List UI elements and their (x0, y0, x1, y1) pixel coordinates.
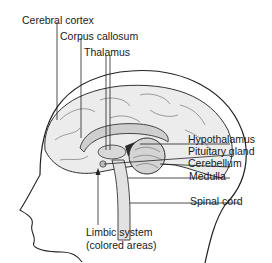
thalamus (98, 145, 126, 159)
label-thalamus: Thalamus (84, 46, 130, 58)
label-hypothalamus: Hypothalamus (188, 133, 255, 145)
label-cerebellum: Cerebellum (188, 157, 242, 169)
label-pituitary-gland: Pituitary gland (188, 145, 255, 157)
face-profile (20, 175, 82, 262)
label-medulla: Medulla (189, 170, 226, 182)
label-spinal-cord: Spinal cord (190, 195, 243, 207)
label-corpus-callosum: Corpus callosum (60, 30, 138, 42)
cerebellum (129, 138, 165, 174)
label-limbic-colored-areas: (colored areas) (86, 239, 157, 251)
label-limbic-system: Limbic system (86, 226, 153, 238)
label-cerebral-cortex: Cerebral cortex (22, 14, 94, 26)
